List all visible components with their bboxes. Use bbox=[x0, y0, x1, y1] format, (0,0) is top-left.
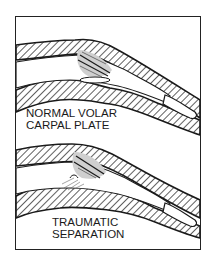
label-line: NORMAL VOLAR bbox=[26, 107, 117, 119]
label-line: CARPAL PLATE bbox=[26, 119, 117, 131]
label-line: TRAUMATIC bbox=[52, 216, 124, 228]
label-line: SEPARATION bbox=[52, 228, 124, 240]
normal-volar-plate-label: NORMAL VOLAR CARPAL PLATE bbox=[26, 107, 117, 131]
traumatic-separation-label: TRAUMATIC SEPARATION bbox=[52, 216, 124, 240]
